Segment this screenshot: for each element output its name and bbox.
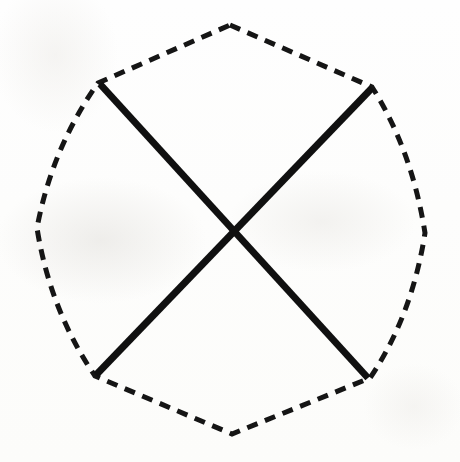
figure-canvas	[0, 0, 460, 462]
geometric-figure	[0, 0, 460, 462]
